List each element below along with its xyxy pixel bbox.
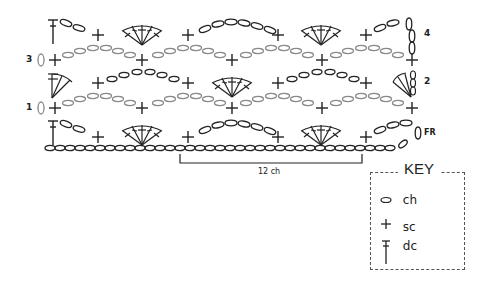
key-title: KEY	[398, 160, 440, 177]
row-1	[38, 93, 418, 114]
row-label-fr: FR	[424, 128, 436, 137]
row-label-3: 3	[26, 54, 32, 64]
single-crochet-icon	[379, 217, 393, 231]
repeat-bracket-label: 12 ch	[258, 167, 280, 176]
repeat-bracket	[180, 154, 362, 163]
row-fr	[48, 119, 421, 145]
double-crochet-icon	[379, 239, 393, 265]
key-row-dc: dc	[379, 239, 417, 265]
key-label-ch: ch	[403, 193, 417, 207]
row-label-2: 2	[424, 76, 430, 86]
key-row-ch: ch	[379, 193, 417, 207]
row-4	[48, 18, 415, 54]
foundation-chain	[45, 139, 409, 151]
key-box: ch sc dc	[370, 172, 465, 270]
key-label-sc: sc	[403, 220, 416, 234]
chain-icon	[379, 194, 393, 204]
key-row-sc: sc	[379, 217, 416, 234]
row-3	[38, 45, 418, 66]
key-label-dc: dc	[403, 239, 417, 253]
row-label-1: 1	[26, 102, 32, 112]
row-label-4: 4	[424, 28, 430, 38]
